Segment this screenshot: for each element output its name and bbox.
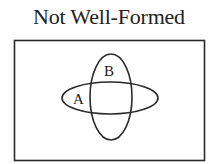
set-a-label: A — [73, 91, 84, 107]
set-b-label: B — [104, 63, 114, 79]
venn-diagram: A B — [0, 0, 218, 164]
universe-rectangle — [15, 41, 205, 161]
